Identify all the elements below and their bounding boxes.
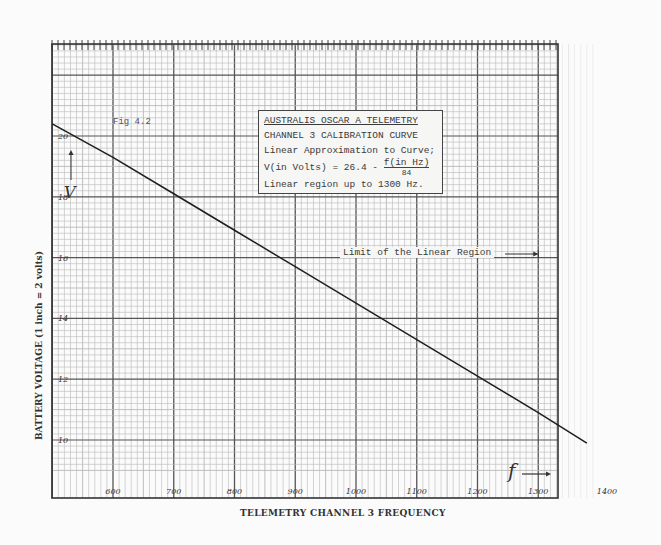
grid (52, 40, 593, 498)
info-box: AUSTRALIS OSCAR A TELEMETRY CHANNEL 3 CA… (258, 110, 443, 194)
y-tick-label: 16 (58, 254, 68, 263)
y-tick-label: 10 (58, 436, 68, 445)
x-tick-label: 1400 (597, 487, 617, 496)
x-tick-label: 1000 (346, 487, 366, 496)
figure-label: Fig 4.2 (113, 117, 151, 127)
x-tick-label: 700 (166, 487, 181, 496)
y-tick-label: 12 (58, 375, 68, 384)
x-tick-label: 900 (288, 487, 303, 496)
arrow-head-icon (533, 252, 538, 257)
x-tick-label: 1300 (528, 487, 548, 496)
x-tick-label: 1100 (407, 487, 427, 496)
x-tick-label: 1200 (467, 487, 487, 496)
info-linear-region: Linear region up to 1300 Hz. (264, 177, 437, 192)
info-formula: V(in Volts) = 26.4 - f(in Hz)84 (264, 158, 437, 177)
y-axis-title: BATTERY VOLTAGE (1 inch = 2 volts) (34, 251, 44, 440)
calibration-chart: 6007008009001000110012001300140020181614… (0, 0, 661, 545)
f-symbol: f (506, 459, 519, 483)
limit-annotation: Limit of the Linear Region (340, 247, 494, 258)
x-tick-label: 800 (227, 487, 242, 496)
graph-paper: 6007008009001000110012001300140020181614… (0, 0, 661, 545)
formula-fraction: f(in Hz)84 (384, 158, 430, 177)
x-tick-label: 600 (105, 487, 120, 496)
y-tick-label: 20 (57, 132, 68, 141)
info-approx: Linear Approximation to Curve; (264, 143, 437, 158)
v-symbol: V (64, 183, 77, 202)
y-tick-label: 14 (58, 314, 68, 323)
info-subtitle: CHANNEL 3 CALIBRATION CURVE (264, 128, 437, 143)
x-axis-title: TELEMETRY CHANNEL 3 FREQUENCY (240, 508, 446, 518)
info-title: AUSTRALIS OSCAR A TELEMETRY (264, 113, 437, 128)
